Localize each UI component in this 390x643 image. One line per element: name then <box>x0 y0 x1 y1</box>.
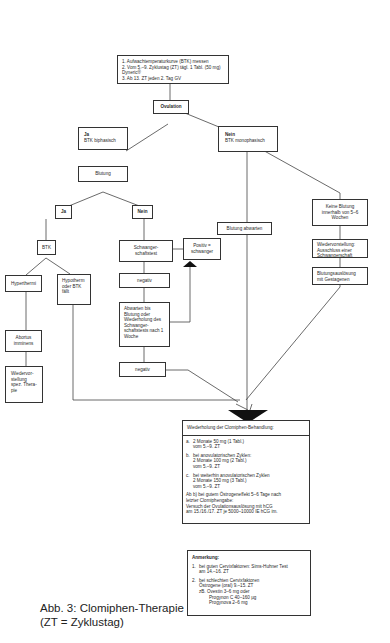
no-branch-box: Nein BTK monophasisch <box>218 126 278 152</box>
blutungsausloesung-label: Blutungsauslösung mit Gestagenen <box>317 271 356 282</box>
negativ-box-2: negativ <box>119 362 166 377</box>
blutung-box: Blutung <box>78 166 128 182</box>
caption-line-2: (ZT = Zyklustag) <box>40 615 184 629</box>
note-item-1-line-2: am 14.–16. ZT <box>199 569 288 575</box>
yes-branch-box: Ja BTK biphasisch <box>78 127 128 150</box>
repeat-treatment-box: Wiederholung der Clomiphen-Behandlung: a… <box>182 420 310 524</box>
blutung-label: Blutung <box>95 171 111 177</box>
blutung-nein-label: Nein <box>138 209 148 215</box>
hypotherm-label: Hypotherm oder BTK fällt <box>62 278 84 294</box>
abortus-label: Abortus imminens <box>9 335 38 346</box>
repeat-item-b-line-3: vom 5.–9. ZT <box>193 464 251 470</box>
negativ-box-1: negativ <box>119 273 170 288</box>
repeat-item-b-label: b. <box>186 453 193 470</box>
btk-box: BTK <box>37 240 56 255</box>
blutung-nein-box: Nein <box>132 205 153 219</box>
connector-lines <box>0 0 390 643</box>
schwangerschaftstest-box: Schwanger-schaftstest <box>119 240 173 262</box>
caption-line-1: Abb. 3: Clomiphen-Therapie <box>40 601 184 615</box>
repeat-title: Wiederholung der Clomiphen-Behandlung: <box>183 421 309 436</box>
blutung-ja-label: Ja <box>61 209 66 215</box>
abwarten-box: Abwarten bis Blutung oder Wiederholung d… <box>119 302 170 347</box>
note-item-1-label: 1. <box>192 564 199 575</box>
wiedervorstellung-left-box: Wiedervor-stellung spez. Thera-pie <box>5 366 43 403</box>
repeat-item-b: b. bei anovulatorischen Zyklen: 2 Monate… <box>186 453 306 470</box>
arrow-up-icon <box>183 261 197 267</box>
keine-blutung-box: Keine Blutung innerhalb von 5–6 Wochen <box>312 199 368 226</box>
start-line-3: 3. Ab 13. ZT jeden 2. Tag GV <box>122 76 224 82</box>
repeat-item-a: a. 2 Monate 50 mg (1 Tabl.) vom 5.–9. ZT <box>186 439 306 450</box>
hypotherm-box: Hypotherm oder BTK fällt <box>57 274 91 305</box>
figure-caption: Abb. 3: Clomiphen-Therapie (ZT = Zyklust… <box>40 601 184 629</box>
blutung-ja-box: Ja <box>55 205 72 219</box>
schwangerschaftstest-label: Schwanger-schaftstest <box>123 245 169 256</box>
repeat-footer: Ab b) bei gutem Östrogeneffekt 5–6 Tage … <box>186 492 306 514</box>
abortus-box: Abortus imminens <box>5 330 42 352</box>
negativ-label-1: negativ <box>137 278 152 284</box>
blutung-abwarten-label: Blutung abwarten <box>227 226 263 232</box>
start-line-2: 2. Vom 5.–9. Zyklustag (ZT) tägl. 1 Tabl… <box>122 65 224 76</box>
wiedervorstellung-right-box: Wiedervorstellung: Ausschluss einer Schw… <box>312 239 368 258</box>
btk-label: BTK <box>42 245 51 251</box>
repeat-item-c-line-3: vom 5.–9. ZT <box>193 484 270 490</box>
blutungsausloesung-box: Blutungsauslösung mit Gestagenen <box>312 267 368 285</box>
negativ-label-2: negativ <box>135 367 150 373</box>
repeat-footer-line-4: am 15./16./17. ZT je 5000–10000 IE hCG i… <box>186 509 306 515</box>
abwarten-label: Abwarten bis Blutung oder Wiederholung d… <box>124 306 163 339</box>
ovulation-label: Ovulation <box>160 104 181 110</box>
positiv-box: Positiv = schwanger <box>183 238 221 260</box>
note-item-2: 2. bei schlechten Cervixfaktoren Östroge… <box>192 578 306 606</box>
hyperthermi-label: Hyperthermi <box>11 281 36 287</box>
note-box: Anmerkung: 1. bei guten Cervixfaktoren: … <box>187 550 311 616</box>
hyperthermi-box: Hyperthermi <box>5 275 42 292</box>
note-item-1: 1. bei guten Cervixfaktoren: Sims-Huhner… <box>192 564 306 575</box>
repeat-item-c: c. bei weiterhin anovulatorischen Zyklen… <box>186 473 306 490</box>
start-box: 1. Aufwachtemperaturkurve (BTK) messen 2… <box>117 55 229 84</box>
wiedervorstellung-left-label: Wiedervor-stellung spez. Thera-pie <box>11 371 37 393</box>
note-item-2-label: 2. <box>192 578 199 606</box>
repeat-item-c-label: c. <box>186 473 193 490</box>
keine-blutung-label: Keine Blutung innerhalb von 5–6 Wochen <box>316 204 364 221</box>
btk-biphasisch: BTK biphasisch <box>84 138 122 144</box>
start-line-1: 1. Aufwachtemperaturkurve (BTK) messen <box>122 59 224 65</box>
wiedervorstellung-right-label: Wiedervorstellung: Ausschluss einer Schw… <box>317 242 355 258</box>
note-title: Anmerkung: <box>192 555 306 561</box>
note-item-2-line-5: Progynova 2–6 mg <box>199 600 259 606</box>
ovulation-box: Ovulation <box>153 100 189 114</box>
btk-monophasisch: BTK monophasisch <box>225 138 271 144</box>
blutung-abwarten-box: Blutung abwarten <box>217 222 272 235</box>
repeat-item-a-line-2: vom 5.–9. ZT <box>193 444 244 450</box>
repeat-item-a-label: a. <box>186 439 193 450</box>
positiv-label: Positiv = schwanger <box>187 243 217 254</box>
